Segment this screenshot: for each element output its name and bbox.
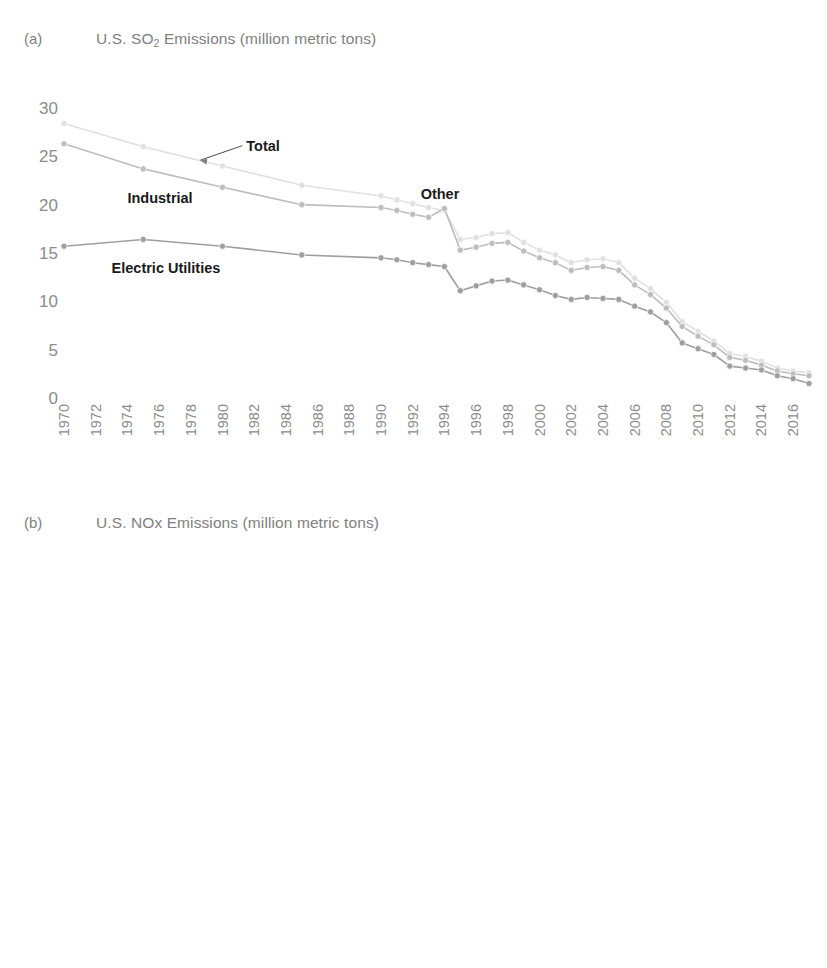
x-tick-label-a-1998: 1998 xyxy=(501,404,516,436)
x-tick-label-a-1996: 1996 xyxy=(469,404,484,436)
annotation-leader-line xyxy=(64,108,809,398)
panel-a-title: U.S. SO2 Emissions (million metric tons) xyxy=(96,30,376,48)
x-tick-label-a-2008: 2008 xyxy=(659,404,674,436)
x-tick-label-a-2014: 2014 xyxy=(754,404,769,436)
x-tick-label-a-2006: 2006 xyxy=(628,404,643,436)
panel-a-title-subscript: 2 xyxy=(154,37,160,49)
panel-a-x-axis-labels: 1970197219741976197819801982198419861988… xyxy=(64,404,809,468)
figure-root: (a) U.S. SO2 Emissions (million metric t… xyxy=(0,0,827,968)
x-tick-label-a-1980: 1980 xyxy=(216,404,231,436)
panel-a-caption: (a) U.S. SO2 Emissions (million metric t… xyxy=(24,30,376,48)
x-tick-label-a-1976: 1976 xyxy=(152,404,167,436)
x-tick-label-a-1974: 1974 xyxy=(120,404,135,436)
chart-panel-a: (a) U.S. SO2 Emissions (million metric t… xyxy=(0,0,827,484)
x-tick-label-a-1990: 1990 xyxy=(374,404,389,436)
y-tick-label-a-10: 10 xyxy=(39,293,58,310)
x-tick-label-a-2004: 2004 xyxy=(596,404,611,436)
y-tick-label-a-25: 25 xyxy=(39,148,58,165)
x-tick-label-a-1970: 1970 xyxy=(57,404,72,436)
x-tick-label-a-1994: 1994 xyxy=(437,404,452,436)
panel-a-title-main: U.S. SO xyxy=(96,30,154,47)
x-tick-label-a-2010: 2010 xyxy=(691,404,706,436)
y-tick-label-a-5: 5 xyxy=(49,341,58,358)
y-tick-label-a-15: 15 xyxy=(39,245,58,262)
y-tick-label-a-30: 30 xyxy=(39,100,58,117)
panel-b-caption: (b) U.S. NOx Emissions (million metric t… xyxy=(24,514,379,532)
chart-panel-b: (b) U.S. NOx Emissions (million metric t… xyxy=(0,484,827,968)
x-tick-label-a-1988: 1988 xyxy=(342,404,357,436)
x-tick-label-a-1986: 1986 xyxy=(311,404,326,436)
series-annotation-electric-utilities: Electric Utilities xyxy=(112,260,221,276)
x-tick-label-a-1972: 1972 xyxy=(89,404,104,436)
panel-b-tag: (b) xyxy=(24,514,96,531)
panel-a-title-rest: Emissions (million metric tons) xyxy=(160,30,377,47)
x-tick-label-a-1982: 1982 xyxy=(247,404,262,436)
x-tick-label-a-2016: 2016 xyxy=(786,404,801,436)
series-annotation-industrial: Industrial xyxy=(127,190,192,206)
panel-b-title-main: U.S. NOx Emissions (million metric tons) xyxy=(96,514,379,531)
panel-a-plot-area: TotalIndustrialOtherElectric Utilities xyxy=(64,108,809,398)
x-tick-label-a-2012: 2012 xyxy=(723,404,738,436)
series-annotation-other: Other xyxy=(421,186,460,202)
y-tick-label-a-20: 20 xyxy=(39,196,58,213)
panel-a-tag: (a) xyxy=(24,30,96,47)
panel-a-y-axis-labels: 051015202530 xyxy=(14,108,58,398)
x-tick-label-a-1978: 1978 xyxy=(184,404,199,436)
x-tick-label-a-1984: 1984 xyxy=(279,404,294,436)
x-tick-label-a-1992: 1992 xyxy=(406,404,421,436)
x-tick-label-a-2000: 2000 xyxy=(533,404,548,436)
panel-b-title: U.S. NOx Emissions (million metric tons) xyxy=(96,514,379,532)
x-tick-label-a-2002: 2002 xyxy=(564,404,579,436)
